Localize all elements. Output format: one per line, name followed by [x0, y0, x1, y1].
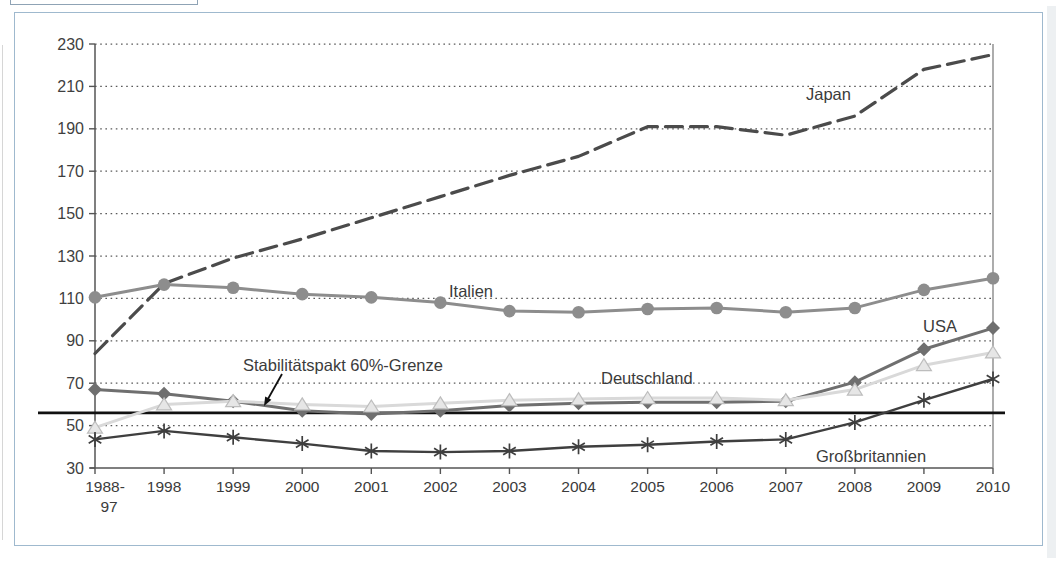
y-tick-label-70: 70 — [66, 375, 84, 392]
marker-USA-2010 — [986, 321, 1000, 335]
x-label-1999: 1999 — [216, 478, 250, 495]
marker-Italien-1999 — [227, 282, 240, 295]
y-tick-label-130: 130 — [57, 248, 84, 265]
marker-Italien-2009 — [918, 284, 931, 297]
x-label-2008: 2008 — [838, 478, 872, 495]
marker-Italien-2007 — [779, 306, 792, 319]
reference-line-label: Stabilitätspakt 60%-Grenze — [243, 356, 443, 374]
y-tick-label-210: 210 — [57, 78, 84, 95]
y-tick-label-50: 50 — [66, 417, 84, 434]
y-tick-label-230: 230 — [57, 36, 84, 53]
scanned-page: 305070901101301501701902102301988-971998… — [0, 0, 1056, 564]
x-label-1998: 1998 — [147, 478, 181, 495]
y-tick-label-90: 90 — [66, 332, 84, 349]
x-label-2009: 2009 — [907, 478, 941, 495]
x-label-2004: 2004 — [561, 478, 596, 495]
marker-Italien-2003 — [503, 305, 516, 318]
y-tick-label-110: 110 — [58, 290, 84, 307]
y-tick-label-190: 190 — [57, 120, 84, 137]
series-label-USA: USA — [923, 317, 957, 335]
marker-USA-2009 — [917, 342, 931, 356]
series-label-Italien: Italien — [449, 282, 493, 300]
y-tick-label-150: 150 — [57, 205, 84, 222]
marker-Italien-2006 — [710, 302, 723, 315]
marker-Italien-2002 — [434, 296, 447, 309]
x-label-2005: 2005 — [630, 478, 664, 495]
marker-Italien-2005 — [641, 303, 654, 316]
x-label-2001: 2001 — [354, 478, 388, 495]
series-label-Großbritannien: Großbritannien — [816, 447, 926, 465]
x-label-2006: 2006 — [699, 478, 733, 495]
marker-Italien-1988-97 — [89, 291, 102, 304]
x-label-2000: 2000 — [285, 478, 320, 495]
marker-Italien-2001 — [365, 291, 378, 304]
marker-Großbritannien-2009 — [918, 393, 931, 408]
series-label-Japan: Japan — [806, 85, 851, 103]
marker-USA-1988-97 — [88, 383, 102, 397]
y-tick-label-30: 30 — [66, 460, 84, 477]
x-label-2002: 2002 — [423, 478, 457, 495]
marker-Großbritannien-2010 — [987, 371, 1000, 386]
x-label-1988-97: 1988- — [85, 478, 125, 495]
marker-Italien-2008 — [849, 302, 862, 315]
reference-arrow-shaft — [267, 374, 283, 402]
debt-to-gdp-line-chart: 305070901101301501701902102301988-971998… — [0, 0, 1056, 564]
marker-Italien-1998 — [158, 278, 171, 291]
x-label-2007: 2007 — [769, 478, 803, 495]
y-tick-label-170: 170 — [57, 163, 84, 180]
marker-Italien-2004 — [572, 306, 585, 319]
x-label-2010: 2010 — [976, 478, 1011, 495]
x-label-1988-97-line2: 97 — [100, 498, 117, 515]
x-label-2003: 2003 — [492, 478, 526, 495]
marker-Italien-2000 — [296, 288, 309, 301]
marker-Italien-2010 — [987, 272, 1000, 285]
series-label-Deutschland: Deutschland — [601, 369, 693, 387]
